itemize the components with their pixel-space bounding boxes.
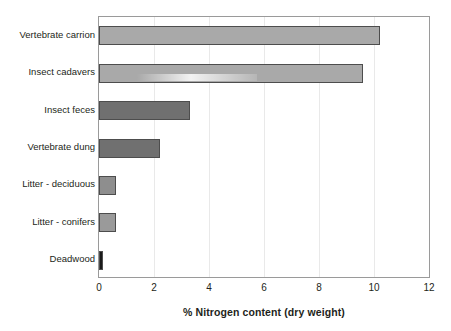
bar-row (99, 99, 431, 123)
bar (99, 64, 363, 83)
category-label: Insect feces (3, 104, 95, 115)
bar (99, 251, 103, 270)
bar-row (99, 24, 431, 48)
x-tick-label-12: 12 (423, 281, 434, 294)
bar-row (99, 248, 431, 272)
x-tick-label-6: 6 (261, 281, 267, 294)
category-label: Litter - conifers (3, 216, 95, 227)
x-tick-label-8: 8 (316, 281, 322, 294)
category-label: Deadwood (3, 253, 95, 264)
bar-row (99, 61, 431, 85)
x-tick-label-2: 2 (151, 281, 157, 294)
plot-area (98, 16, 430, 278)
bar (99, 26, 380, 45)
bar (99, 176, 116, 195)
bar (99, 101, 190, 120)
bar-row (99, 173, 431, 197)
category-axis-labels: Vertebrate carrionInsect cadaversInsect … (0, 16, 95, 278)
category-label: Vertebrate carrion (3, 29, 95, 40)
bar-row (99, 211, 431, 235)
category-label: Insect cadavers (3, 66, 95, 77)
x-tick-label-0: 0 (96, 281, 102, 294)
category-label: Vertebrate dung (3, 141, 95, 152)
x-tick-label-10: 10 (368, 281, 379, 294)
category-label: Litter - deciduous (3, 178, 95, 189)
x-axis-title: % Nitrogen content (dry weight) (98, 306, 430, 318)
bar-chart: Vertebrate carrionInsect cadaversInsect … (0, 0, 451, 331)
bar-row (99, 136, 431, 160)
x-axis-tick-labels: 024681012 (98, 281, 430, 297)
bar (99, 139, 160, 158)
x-tick-label-4: 4 (206, 281, 212, 294)
bar (99, 213, 116, 232)
